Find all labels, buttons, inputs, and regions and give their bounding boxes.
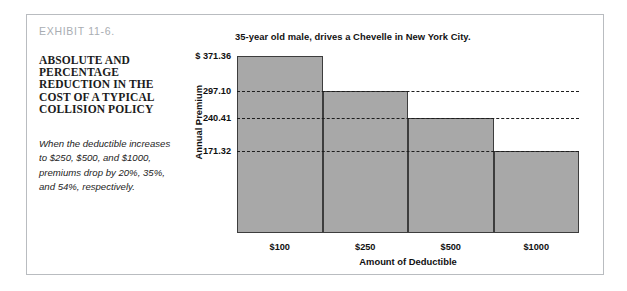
chart-title: 35-year old male, drives a Chevelle in N…	[235, 31, 471, 42]
exhibit-caption: When the deductible increases to $250, $…	[39, 137, 179, 194]
y-tick-label: 240.41	[203, 113, 231, 123]
bar-1000	[494, 151, 580, 233]
y-tick-label: 171.32	[203, 146, 231, 156]
x-tick-label: $500	[441, 242, 461, 252]
bar-100	[237, 56, 323, 233]
exhibit-heading: ABSOLUTE AND PERCENTAGE REDUCTION IN THE…	[39, 54, 179, 115]
x-tick-label: $1000	[523, 242, 549, 252]
bar-500	[408, 118, 494, 233]
y-tick-label: $ 371.36	[195, 51, 231, 61]
gridline	[237, 151, 579, 152]
gridline	[237, 118, 579, 119]
exhibit-number: EXHIBIT 11-6.	[39, 25, 179, 37]
y-tick-label: 297.10	[203, 86, 231, 96]
x-tick-label: $100	[270, 242, 290, 252]
bar-chart: 35-year old male, drives a Chevelle in N…	[179, 15, 603, 274]
gridline	[237, 91, 579, 92]
plot-area: Amount of Deductible $100$250$500$1000$ …	[237, 56, 579, 233]
x-tick-label: $250	[355, 242, 375, 252]
x-axis-title: Amount of Deductible	[359, 256, 456, 267]
exhibit-frame: EXHIBIT 11-6. ABSOLUTE AND PERCENTAGE RE…	[26, 14, 604, 275]
bar-250	[323, 91, 409, 233]
exhibit-sidebar: EXHIBIT 11-6. ABSOLUTE AND PERCENTAGE RE…	[39, 25, 179, 194]
